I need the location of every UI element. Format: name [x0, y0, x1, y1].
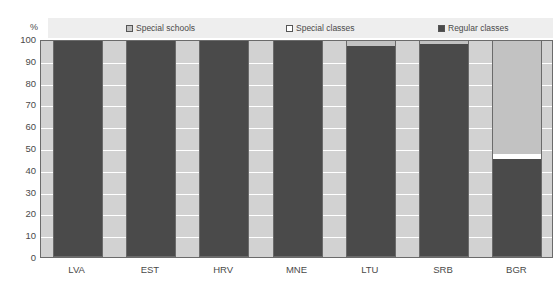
legend-swatch-regular-classes-icon: [438, 25, 445, 32]
x-tick-label-hrv: HRV: [198, 264, 248, 275]
y-axis-unit-label: %: [16, 22, 38, 32]
legend-swatch-special-schools-icon: [126, 25, 133, 32]
legend-label-regular-classes: Regular classes: [448, 23, 508, 33]
x-tick-label-est: EST: [125, 264, 175, 275]
y-tick-label: 90: [0, 57, 36, 67]
bar-lva: [53, 40, 103, 257]
bar-bgr: [492, 40, 542, 257]
bar-segment-regular-classes: [54, 40, 102, 256]
bar-segment-regular-classes: [274, 40, 322, 256]
y-tick-label: 100: [0, 35, 36, 45]
legend-label-special-schools: Special schools: [136, 23, 195, 33]
y-tick-label: 80: [0, 79, 36, 89]
legend-item-special-classes: Special classes: [286, 23, 355, 33]
x-tick-label-bgr: BGR: [491, 264, 541, 275]
y-tick-label: 20: [0, 210, 36, 220]
bar-ltu: [346, 40, 396, 257]
legend-label-special-classes: Special classes: [296, 23, 355, 33]
bar-segment-regular-classes: [347, 46, 395, 256]
bar-segment-regular-classes: [127, 40, 175, 256]
bar-est: [126, 40, 176, 257]
y-tick-label: 30: [0, 188, 36, 198]
y-tick-label: 10: [0, 231, 36, 241]
x-tick-label-srb: SRB: [418, 264, 468, 275]
y-tick-label: 0: [0, 253, 36, 263]
bar-segment-regular-classes: [420, 44, 468, 256]
legend-item-regular-classes: Regular classes: [438, 23, 508, 33]
x-tick-label-mne: MNE: [272, 264, 322, 275]
chart-legend: Special schools Special classes Regular …: [48, 18, 553, 38]
bar-segment-regular-classes: [200, 40, 248, 256]
plot-area: [40, 40, 553, 258]
bar-segment-special-schools: [493, 40, 541, 154]
y-tick-label: 70: [0, 101, 36, 111]
x-tick-label-lva: LVA: [52, 264, 102, 275]
y-tick-label: 40: [0, 166, 36, 176]
legend-swatch-special-classes-icon: [286, 25, 293, 32]
legend-item-special-schools: Special schools: [126, 23, 195, 33]
bar-hrv: [199, 40, 249, 257]
bar-srb: [419, 40, 469, 257]
bar-segment-regular-classes: [493, 159, 541, 256]
x-axis: LVAESTHRVMNELTUSRBBGR: [40, 259, 553, 283]
stacked-bar-chart: Special schools Special classes Regular …: [0, 0, 560, 291]
x-tick-label-ltu: LTU: [345, 264, 395, 275]
y-axis: 0102030405060708090100: [0, 40, 36, 258]
y-tick-label: 50: [0, 144, 36, 154]
bar-mne: [273, 40, 323, 257]
y-tick-label: 60: [0, 122, 36, 132]
